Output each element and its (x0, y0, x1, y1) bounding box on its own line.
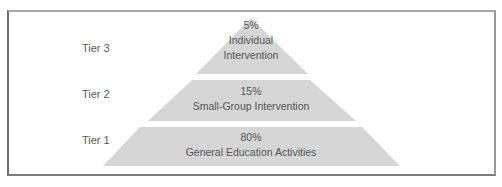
tier-3-label: Tier 3 (82, 42, 110, 55)
tier-2-percent: 15% (171, 84, 331, 99)
tier-3-line1: Individual (201, 33, 301, 48)
tier-2-label: Tier 2 (82, 88, 110, 101)
tier-1-label: Tier 1 (82, 134, 110, 147)
tier-1-text: 80% General Education Activities (161, 130, 341, 160)
tier-1-line1: General Education Activities (161, 145, 341, 160)
tier-3-line2: Intervention (201, 48, 301, 63)
tier-2-line1: Small-Group Intervention (171, 99, 331, 114)
tier-3-text: 5% Individual Intervention (201, 18, 301, 63)
tier-2-text: 15% Small-Group Intervention (171, 84, 331, 114)
tier-1-percent: 80% (161, 130, 341, 145)
tier-3-percent: 5% (201, 18, 301, 33)
